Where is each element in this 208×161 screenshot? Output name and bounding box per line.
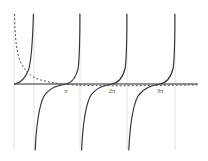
plot-background <box>0 0 208 161</box>
figure-root: π 2π 3π <box>0 0 208 161</box>
x-tick-label-3pi: 3π <box>157 87 164 94</box>
x-tick-label-2pi: 2π <box>109 87 116 94</box>
tangent-function-plot: π 2π 3π <box>0 0 208 161</box>
